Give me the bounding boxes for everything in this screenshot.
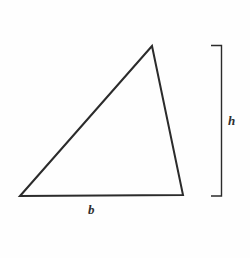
figure-container: b h xyxy=(0,0,250,258)
figure-canvas xyxy=(0,0,250,258)
triangle-shape xyxy=(20,46,183,196)
base-label: b xyxy=(88,203,95,216)
height-bracket xyxy=(211,46,222,197)
height-label: h xyxy=(228,114,235,127)
